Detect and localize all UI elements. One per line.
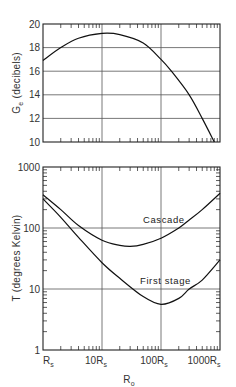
y-tick-10: 10 bbox=[29, 284, 41, 295]
y-tick-1: 1 bbox=[34, 345, 40, 356]
first-stage-label: First stage bbox=[140, 275, 191, 286]
y-tick-14: 14 bbox=[29, 89, 41, 100]
first-stage-curve bbox=[43, 199, 220, 305]
x-tick-10rs: 10Rs bbox=[85, 355, 107, 368]
y-tick-18: 18 bbox=[29, 42, 41, 53]
x-tick-100rs: 100Rs bbox=[140, 355, 168, 368]
gain-y-tick-labels: 20 18 16 14 12 10 bbox=[29, 19, 41, 148]
cascade-label: Cascade bbox=[143, 214, 185, 225]
x-tick-rs: Rs bbox=[43, 355, 54, 368]
gain-curve bbox=[43, 33, 214, 142]
x-tick-labels: Rs 10Rs 100Rs 1000Rs bbox=[43, 355, 221, 368]
temperature-plot-frame bbox=[43, 167, 220, 350]
gain-y-axis-label: Ge (decibels) bbox=[11, 52, 24, 114]
temperature-y-axis-label: T (degrees Kelvin) bbox=[11, 215, 22, 302]
chart-figure: 20 18 16 14 12 10 Ge (decibels) Cascade … bbox=[0, 0, 236, 387]
x-tick-1000rs: 1000Rs bbox=[188, 355, 221, 368]
temperature-minor-ticks bbox=[43, 167, 220, 350]
cascade-curve bbox=[43, 193, 220, 246]
y-tick-16: 16 bbox=[29, 66, 41, 77]
y-tick-12: 12 bbox=[29, 113, 41, 124]
y-tick-100: 100 bbox=[23, 223, 40, 234]
y-tick-20: 20 bbox=[29, 19, 41, 30]
gain-minor-ticks bbox=[61, 24, 218, 142]
x-axis-label: Ro bbox=[123, 374, 135, 387]
y-tick-10: 10 bbox=[29, 137, 41, 148]
gain-chart: 20 18 16 14 12 10 Ge (decibels) bbox=[11, 19, 220, 148]
y-tick-1000: 1000 bbox=[18, 162, 41, 173]
temperature-chart: Cascade First stage 1000 100 10 1 T (deg… bbox=[11, 162, 221, 387]
temperature-grid bbox=[43, 167, 220, 350]
